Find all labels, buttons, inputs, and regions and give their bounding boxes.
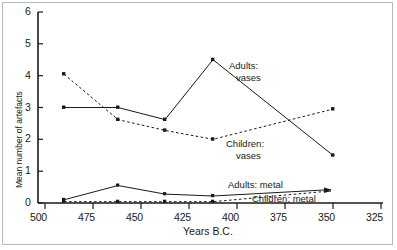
y-tick-label-3: 3 (25, 101, 31, 113)
annotation-children-vases-line1: Children: (226, 138, 264, 149)
y-tick-label-5: 5 (25, 37, 31, 49)
annotation-adults-vases-line2: vases (236, 72, 261, 83)
y-axis-title: Mean number of artefacts (14, 91, 24, 188)
x-tick-label-450: 450 (126, 211, 143, 223)
y-tick-label-0: 0 (25, 196, 31, 208)
x-tick-label-500: 500 (30, 211, 47, 223)
x-tick-label-475: 475 (78, 211, 95, 223)
y-tick-label-6: 6 (25, 5, 31, 17)
annotation-adults-metal: Adults: metal (228, 179, 283, 190)
series-children-vases (62, 72, 334, 141)
y-tick-label-4: 4 (25, 69, 31, 81)
y-tick-label-1: 1 (25, 164, 31, 176)
x-tick-label-400: 400 (222, 211, 239, 223)
annotation-adults-vases-line1: Adults: (229, 60, 258, 71)
x-tick-label-325: 325 (366, 211, 383, 223)
x-tick-label-375: 375 (270, 211, 287, 223)
x-tick-label-350: 350 (318, 211, 335, 223)
line-chart-plot (0, 0, 397, 250)
x-axis-title: Years B.C. (183, 225, 233, 237)
x-tick-marks (45, 203, 381, 209)
annotation-children-vases-line2: vases (236, 150, 261, 161)
x-tick-label-425: 425 (174, 211, 191, 223)
annotation-children-metal: Children: metal (252, 193, 316, 204)
y-tick-label-2: 2 (25, 132, 31, 144)
chart-figure: 6 5 4 3 2 1 0 500 475 450 425 400 375 35… (0, 0, 397, 250)
